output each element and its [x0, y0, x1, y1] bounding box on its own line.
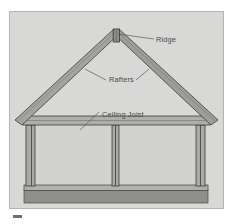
label-rafters: Rafters	[109, 75, 134, 84]
label-ridge: Ridge	[156, 35, 176, 44]
label-ceiling-joist: Ceiling Joist	[102, 110, 144, 119]
foundation	[24, 190, 208, 203]
diagram-canvas: Ridge Rafters Ceiling Joist	[10, 12, 223, 208]
diagram-frame: Ridge Rafters Ceiling Joist	[9, 11, 224, 209]
left-wall	[26, 125, 35, 186]
roof-framing-diagram: Ridge Rafters Ceiling Joist	[0, 0, 233, 224]
corner-mark	[13, 215, 22, 218]
